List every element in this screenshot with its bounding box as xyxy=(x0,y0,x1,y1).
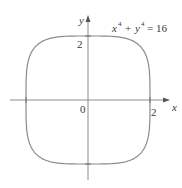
origin-label: 0 xyxy=(80,103,86,115)
x-axis-arrow-icon xyxy=(163,98,170,103)
equation-x: x xyxy=(111,22,117,34)
x-axis-label: x xyxy=(171,101,177,113)
equation-exponent-2: 4 xyxy=(141,20,145,28)
equation-rhs: = 16 xyxy=(147,22,167,34)
equation-plus: + xyxy=(125,22,131,34)
y-axis-label: y xyxy=(78,14,84,26)
equation-exponent-1: 4 xyxy=(118,20,122,28)
y-axis-arrow-icon xyxy=(86,15,91,22)
y-tick-label: 2 xyxy=(77,38,83,50)
x-tick-label: 2 xyxy=(151,106,157,118)
plot-area: y x 2 2 0 x 4 + y 4 = 16 xyxy=(0,0,182,188)
equation-y: y xyxy=(134,22,140,34)
equation-label: x 4 + y 4 = 16 xyxy=(111,20,167,34)
